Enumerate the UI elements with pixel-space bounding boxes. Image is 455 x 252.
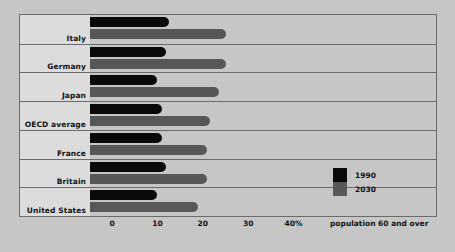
chart-legend: 19902030: [333, 168, 413, 196]
legend-label: 2030: [355, 185, 376, 194]
bar-group: [90, 45, 436, 73]
bar-1990-germany: [90, 47, 166, 57]
bar-2030-oecd-average: [90, 116, 210, 126]
legend-swatch-icon: [333, 182, 347, 196]
category-label: Japan: [20, 91, 86, 100]
chart-container: ItalyGermanyJapanOECD averageFranceBrita…: [0, 0, 455, 252]
x-tick-label: 20: [198, 219, 208, 228]
legend-item: 2030: [333, 182, 413, 196]
chart-row: Italy: [20, 15, 436, 44]
bar-2030-france: [90, 145, 207, 155]
bar-2030-britain: [90, 174, 207, 184]
x-tick-label: 30: [243, 219, 253, 228]
bar-group: [90, 102, 436, 130]
bar-2030-italy: [90, 29, 226, 39]
x-tick-label: 10: [152, 219, 162, 228]
bar-1990-italy: [90, 17, 169, 27]
bar-1990-united-states: [90, 190, 157, 200]
chart-row: Germany: [20, 44, 436, 73]
bar-group: [90, 73, 436, 101]
bar-group: [90, 15, 436, 44]
bar-1990-japan: [90, 75, 157, 85]
legend-label: 1990: [355, 171, 376, 180]
chart-row: OECD average: [20, 101, 436, 130]
x-tick-label: 0: [109, 219, 114, 228]
category-label: United States: [20, 206, 86, 215]
category-label: Italy: [20, 34, 86, 43]
legend-swatch-icon: [333, 168, 347, 182]
category-label: France: [20, 149, 86, 158]
bar-1990-britain: [90, 162, 166, 172]
legend-item: 1990: [333, 168, 413, 182]
bar-2030-japan: [90, 87, 219, 97]
bar-2030-united-states: [90, 202, 198, 212]
bar-group: [90, 131, 436, 159]
chart-row: France: [20, 130, 436, 159]
bar-1990-france: [90, 133, 162, 143]
category-label: Britain: [20, 177, 86, 186]
x-tick-label: 40%: [285, 219, 303, 228]
chart-row: Japan: [20, 72, 436, 101]
x-axis-caption: population 60 and over: [330, 219, 428, 228]
bar-2030-germany: [90, 59, 226, 69]
category-label: OECD average: [20, 120, 86, 129]
category-label: Germany: [20, 62, 86, 71]
bar-1990-oecd-average: [90, 104, 162, 114]
